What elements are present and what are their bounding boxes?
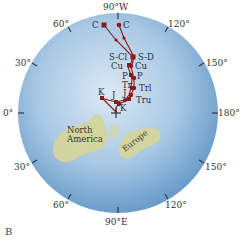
lon-label-90e: 90°E [105, 217, 128, 227]
label-c-right: C [123, 20, 130, 30]
label-trl: Trl [139, 83, 152, 93]
label-cu-right: Cu [135, 61, 148, 71]
lon-label-150-lower: 150° [205, 162, 227, 172]
label-k-left: K [98, 87, 105, 97]
label-tru: Tru [136, 95, 152, 105]
lon-label-90w: 90°W [103, 2, 129, 12]
label-j-upper: J [122, 88, 127, 98]
label-j-left: J [111, 90, 116, 100]
lon-label-30-upper: 30° [15, 58, 31, 68]
polar-wander-figure: North America Europe 90°W 60° 120° 30° 1… [0, 0, 243, 242]
lon-label-0: 0° [3, 108, 13, 118]
lon-label-30-lower: 30° [14, 162, 30, 172]
lon-label-120-bottom: 120° [165, 200, 187, 210]
lon-label-60-bottom: 60° [53, 200, 69, 210]
label-america: America [66, 134, 103, 144]
lon-label-120-top: 120° [168, 19, 190, 29]
lon-label-60-top: 60° [53, 19, 69, 29]
label-k-bottom: K [120, 103, 127, 113]
label-cu-left: Cu [111, 61, 124, 71]
globe-diagram: North America Europe 90°W 60° 120° 30° 1… [0, 0, 243, 242]
lon-label-150-upper: 150° [206, 58, 228, 68]
panel-label: B [5, 226, 12, 237]
label-c-left: C [92, 20, 99, 30]
label-p-right: P [137, 71, 143, 81]
lon-label-180: 180° [218, 108, 240, 118]
